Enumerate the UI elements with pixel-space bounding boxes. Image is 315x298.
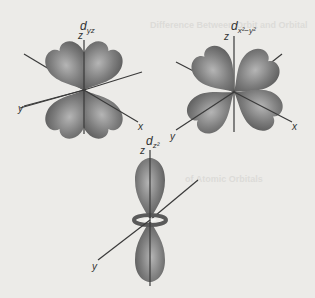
dyz-y-label: y [17, 103, 24, 114]
dz2-y-label: y [91, 261, 98, 272]
dx2y2-z-label: z [223, 31, 229, 42]
dz2-orbital: z y dz² [91, 134, 198, 286]
dz2-title: dz² [146, 134, 160, 150]
dx2y2-y-label: y [169, 131, 176, 142]
dyz-title: dyz [80, 19, 95, 35]
dyz-x-label: x [137, 121, 144, 132]
textbook-page: Difference Between Orbit and Orbital of … [0, 0, 315, 298]
dyz-orbital: z y x dyz [17, 19, 144, 144]
dx2y2-x-label: x [291, 121, 298, 132]
dx2-y2-orbital: z y x dx²−y² [169, 19, 298, 142]
dz2-z-label: z [139, 145, 145, 156]
d-orbitals-diagram: z y x dyz z y x dx²−y² [0, 0, 315, 298]
dx2y2-title: dx²−y² [231, 19, 256, 35]
